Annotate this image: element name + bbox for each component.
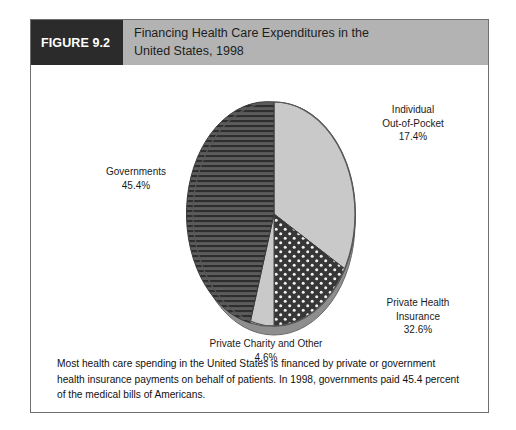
pie-label-insurance-value: 32.6% [353, 323, 483, 337]
figure-title: Financing Health Care Expenditures in th… [123, 20, 488, 65]
figure-title-line-2: United States, 1998 [134, 43, 488, 61]
pie-label-insurance-line-2: Insurance [353, 310, 483, 324]
pie-label-private-health-insurance: Private Health Insurance 32.6% [353, 296, 483, 337]
pie-label-individual-out-of-pocket: Individual Out-of-Pocket 17.4% [349, 103, 477, 144]
figure-caption: Most health care spending in the United … [31, 356, 488, 403]
pie-label-governments: Governments 45.4% [73, 165, 199, 192]
pie-label-governments-line-1: Governments [73, 165, 199, 179]
pie-label-individual-value: 17.4% [349, 130, 477, 144]
figure-header: FIGURE 9.2 Financing Health Care Expendi… [31, 20, 488, 65]
pie-label-individual-line-1: Individual [349, 103, 477, 117]
figure-title-line-1: Financing Health Care Expenditures in th… [134, 25, 488, 43]
pie-label-insurance-line-1: Private Health [353, 296, 483, 310]
figure-frame: FIGURE 9.2 Financing Health Care Expendi… [30, 19, 489, 413]
pie-label-individual-line-2: Out-of-Pocket [349, 117, 477, 131]
figure-number-badge: FIGURE 9.2 [31, 20, 123, 65]
pie-label-governments-value: 45.4% [73, 179, 199, 193]
pie-chart: Individual Out-of-Pocket 17.4% Governmen… [31, 65, 488, 356]
pie-label-charity-line-1: Private Charity and Other [161, 337, 371, 351]
